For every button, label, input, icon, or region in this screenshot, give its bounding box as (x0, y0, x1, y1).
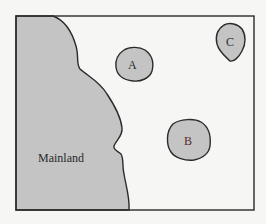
island-a-label: A (128, 58, 137, 72)
mainland-shape (16, 16, 129, 210)
island-c-label: C (226, 35, 234, 49)
island-b-label: B (184, 134, 192, 148)
mainland-label: Mainland (38, 151, 84, 165)
map: Mainland A B C (0, 0, 266, 224)
